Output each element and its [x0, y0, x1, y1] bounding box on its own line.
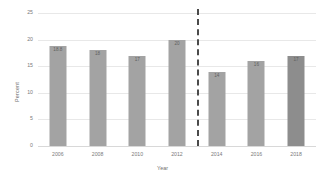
- y-axis-tick-label: 0: [30, 143, 33, 148]
- y-axis-title: Percent: [15, 82, 20, 102]
- y-axis-tick-label: 5: [30, 117, 33, 122]
- bar-slot: 182008: [78, 13, 118, 146]
- x-axis-tick-label: 2010: [131, 152, 143, 157]
- bar-value-label: 18.8: [53, 48, 62, 53]
- bar[interactable]: 17: [288, 56, 305, 146]
- bar[interactable]: 17: [129, 56, 146, 146]
- bar-chart: Percent 0510152025 18.820061820081720102…: [0, 0, 325, 183]
- bar-slot: 142014: [197, 13, 237, 146]
- bar-value-label: 14: [214, 74, 219, 79]
- bar-slot: 172010: [117, 13, 157, 146]
- bar[interactable]: 20: [168, 40, 185, 146]
- plot-area: 0510152025 18.82006182008172010202012142…: [38, 13, 316, 146]
- bar-slot: 202012: [157, 13, 197, 146]
- bar-value-label: 17: [294, 58, 299, 63]
- x-axis-title: Year: [0, 166, 325, 171]
- bar-value-label: 20: [174, 42, 179, 47]
- bar-slot: 162016: [237, 13, 277, 146]
- x-axis-tick-label: 2006: [52, 152, 64, 157]
- bar-value-label: 18: [95, 52, 100, 57]
- x-axis-tick-label: 2008: [92, 152, 104, 157]
- x-axis-tick-label: 2016: [251, 152, 263, 157]
- bar-value-label: 17: [135, 58, 140, 63]
- bar-slot: 172018: [276, 13, 316, 146]
- period-divider-line: [197, 9, 199, 146]
- bar[interactable]: 18.8: [49, 46, 66, 146]
- bar-value-label: 16: [254, 63, 259, 68]
- x-axis-tick-label: 2014: [211, 152, 223, 157]
- y-axis-tick-label: 20: [27, 37, 33, 42]
- y-axis-tick-label: 25: [27, 10, 33, 15]
- bar-slot: 18.82006: [38, 13, 78, 146]
- y-axis-tick-label: 15: [27, 64, 33, 69]
- bar[interactable]: 16: [248, 61, 265, 146]
- x-axis-tick-label: 2018: [290, 152, 302, 157]
- bar[interactable]: 18: [89, 50, 106, 146]
- bar[interactable]: 14: [208, 72, 225, 146]
- x-axis-tick-label: 2012: [171, 152, 183, 157]
- gridline: 0: [38, 146, 316, 147]
- y-axis-tick-label: 10: [27, 90, 33, 95]
